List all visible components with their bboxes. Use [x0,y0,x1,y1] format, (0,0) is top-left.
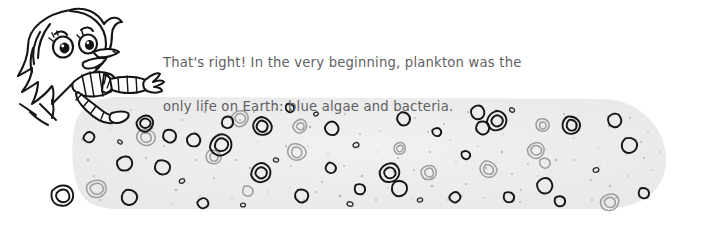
hand [143,73,164,92]
narration-text: That's right! In the very beginning, pla… [163,30,563,140]
narration-line-2: only life on Earth: blue algae and bacte… [163,96,563,118]
plankton-cell [50,184,75,208]
motion-lines [20,100,56,125]
illustration-scene: That's right! In the very beginning, pla… [0,0,701,229]
narration-line-1: That's right! In the very beginning, pla… [163,52,563,74]
